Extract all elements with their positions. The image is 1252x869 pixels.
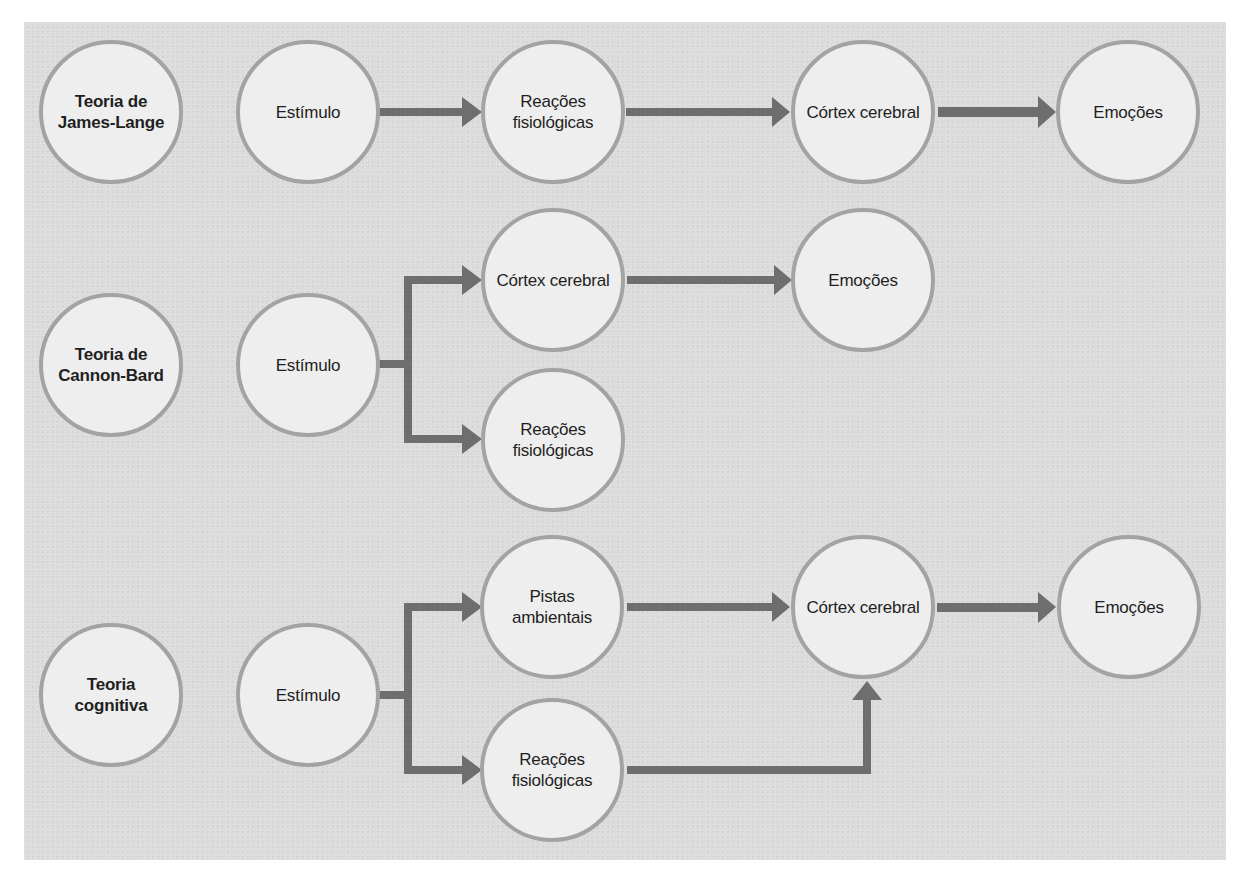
node-label: Córtex cerebral [800,597,925,618]
node-emotions-row3: Emoções [1057,535,1201,679]
node-label: Estímulo [270,102,347,123]
arrow-cortex-to-emotions-row2 [627,265,792,295]
node-label: Córtex cerebral [490,270,615,291]
node-emotions-row2: Emoções [791,208,935,352]
node-label: Estímulo [270,355,347,376]
theory-cannon-bard: Teoria de Cannon-Bard [39,293,183,437]
node-stimulus-row3: Estímulo [236,623,380,767]
arrow-cues-to-cortex-row3 [627,592,790,622]
node-cues-row3: Pistas ambientais [480,535,624,679]
node-physio-row1: Reações fisiológicas [481,40,625,184]
node-label: Reações fisiológicas [484,749,620,791]
bracket-stimulus-split-row2 [378,265,482,454]
node-label: Córtex cerebral [800,102,925,123]
node-label: Emoções [1088,597,1169,618]
node-cortex-row3: Córtex cerebral [791,535,935,679]
node-label: Pistas ambientais [484,586,620,628]
arrow-cortex-to-emotions-row3 [937,592,1056,623]
arrow-physio-to-cortex-row1 [626,97,790,127]
node-label: Reações fisiológicas [485,419,621,461]
node-physio-row2: Reações fisiológicas [481,368,625,512]
node-label: Emoções [1087,102,1168,123]
node-label: Emoções [822,270,903,291]
node-cortex-row1: Córtex cerebral [791,40,935,184]
arrow-physio-to-cortex-row3 [627,681,882,774]
arrow-cortex-to-emotions-row1 [938,96,1056,128]
node-label: Reações fisiológicas [485,91,621,133]
node-cortex-row2: Córtex cerebral [481,208,625,352]
theory-label: Teoria de James-Lange [43,91,179,133]
theory-label: Teoria de Cannon-Bard [43,344,179,386]
theory-cognitive: Teoria cognitiva [39,623,183,767]
node-stimulus-row1: Estímulo [236,40,380,184]
theory-label: Teoria cognitiva [43,674,179,716]
bracket-stimulus-split-row3 [378,592,482,785]
node-emotions-row1: Emoções [1056,40,1200,184]
node-stimulus-row2: Estímulo [236,293,380,437]
node-label: Estímulo [270,685,347,706]
arrow-stimulus-to-physio-row1 [378,97,482,127]
theory-james-lange: Teoria de James-Lange [39,40,183,184]
node-physio-row3: Reações fisiológicas [480,698,624,842]
